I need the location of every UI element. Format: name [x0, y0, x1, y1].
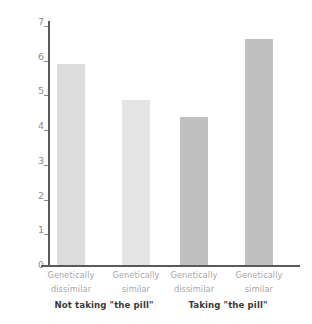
plot-area: 7 6 5 4 3 2 1 0	[0, 0, 312, 324]
bar-genetically-dissimilar-taking-pill	[180, 117, 208, 265]
bar-chart: Rated attractiveness of male odors 7 6 5…	[0, 0, 312, 324]
y-tick-7: 7	[26, 22, 44, 32]
y-tick-3: 3	[26, 161, 44, 171]
y-axis-line	[48, 21, 50, 266]
bar-genetically-dissimilar-not-taking-pill	[57, 64, 85, 265]
y-tick-5: 5	[26, 91, 44, 101]
y-tick-label-7: 7	[30, 17, 44, 27]
category-label-3-line1: Genetically	[220, 269, 298, 283]
bar-genetically-similar-not-taking-pill	[122, 100, 150, 265]
y-tick-label-3: 3	[30, 156, 44, 166]
x-axis-line	[41, 265, 300, 267]
y-tick-4: 4	[26, 126, 44, 136]
y-tick-label-4: 4	[30, 121, 44, 131]
y-tick-label-5: 5	[30, 86, 44, 96]
y-tick-label-2: 2	[30, 191, 44, 201]
category-label-3-line2: similar	[220, 283, 298, 297]
y-tick-label-6: 6	[30, 52, 44, 62]
y-tick-1: 1	[26, 230, 44, 240]
y-tick-6: 6	[26, 57, 44, 67]
y-tick-2: 2	[26, 196, 44, 206]
y-tick-label-1: 1	[30, 225, 44, 235]
bar-genetically-similar-taking-pill	[245, 39, 273, 265]
group-label-taking-pill: Taking "the pill"	[153, 300, 303, 310]
category-label-3: Genetically similar	[220, 269, 298, 296]
